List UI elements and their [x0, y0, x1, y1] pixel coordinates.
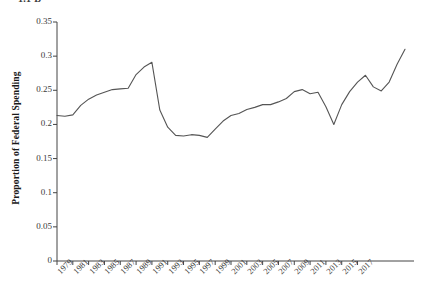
axis-lines: [57, 22, 414, 261]
data-series-line: [57, 49, 405, 137]
chart-canvas: [0, 0, 426, 305]
plot-area: Proportion of Federal Spending 00.050.10…: [0, 0, 426, 305]
x-axis-ticks: [57, 261, 358, 265]
y-axis-ticks: [53, 22, 57, 261]
chart-page: 1.1 D Proportion of Federal Spending 00.…: [0, 0, 426, 305]
